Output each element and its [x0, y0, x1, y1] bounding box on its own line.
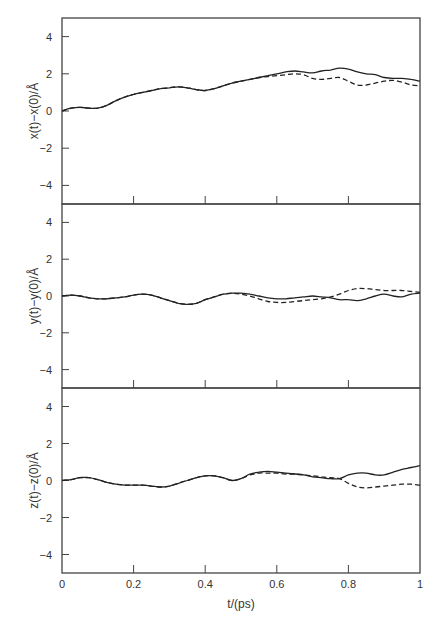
- series-solid-line: [62, 293, 420, 304]
- panel-z: 420−2−4z(t)−z(0)/Å: [26, 388, 420, 573]
- y-tick-label: −4: [39, 364, 52, 376]
- x-axis-label: t/(ps): [227, 597, 254, 611]
- trajectory-chart: 420−2−4x(t)−x(0)/Å420−2−4y(t)−y(0)/Å420−…: [0, 0, 439, 623]
- y-tick-label: −2: [39, 512, 52, 524]
- panels-group: 420−2−4x(t)−x(0)/Å420−2−4y(t)−y(0)/Å420−…: [26, 18, 423, 590]
- series-dashed-line: [62, 473, 420, 488]
- y-tick-label: 2: [46, 438, 52, 450]
- panel-y: 420−2−4y(t)−y(0)/Å: [26, 204, 420, 388]
- y-tick-label: 4: [46, 31, 52, 43]
- y-tick-label: 4: [46, 401, 52, 413]
- y-tick-label: 2: [46, 253, 52, 265]
- series-solid-line: [62, 68, 420, 111]
- y-tick-label: −4: [39, 549, 52, 561]
- panel-x: 420−2−4x(t)−x(0)/Å: [26, 18, 420, 204]
- y-axis-label-x: x(t)−x(0)/Å: [26, 83, 41, 139]
- y-tick-label: 0: [46, 475, 52, 487]
- y-tick-label: 2: [46, 68, 52, 80]
- y-axis-label-z: z(t)−z(0)/Å: [26, 452, 41, 508]
- y-tick-label: 0: [46, 290, 52, 302]
- y-tick-label: 0: [46, 105, 52, 117]
- x-tick-label: 0.6: [269, 578, 284, 590]
- panel-frame: [62, 388, 420, 573]
- x-tick-label: 0: [59, 578, 65, 590]
- y-axis-label-y: y(t)−y(0)/Å: [26, 268, 41, 324]
- y-tick-label: −2: [39, 142, 52, 154]
- panel-frame: [62, 18, 420, 204]
- y-tick-label: 4: [46, 216, 52, 228]
- y-tick-label: −4: [39, 179, 52, 191]
- series-dashed-line: [62, 74, 420, 111]
- x-tick-label: 0.2: [126, 578, 141, 590]
- x-tick-label: 0.8: [341, 578, 356, 590]
- x-tick-label: 1: [417, 578, 423, 590]
- series-dashed-line: [62, 288, 420, 304]
- panel-frame: [62, 204, 420, 388]
- x-tick-label: 0.4: [198, 578, 213, 590]
- series-solid-line: [62, 466, 420, 487]
- y-tick-label: −2: [39, 327, 52, 339]
